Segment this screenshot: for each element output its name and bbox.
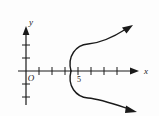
y-axis-arrowhead [23, 26, 30, 35]
parabola-upper-arrowhead [122, 25, 133, 34]
coordinate-plane-svg: y x O 5 [0, 0, 159, 116]
origin-label: O [28, 73, 35, 83]
parabola-lower-arrowhead [125, 106, 137, 114]
x-axis-tick-label-5: 5 [77, 75, 81, 84]
x-axis-label: x [143, 66, 148, 76]
y-axis-group [22, 26, 30, 105]
math-figure-canvas: y x O 5 [0, 0, 159, 116]
x-axis-arrowhead [130, 68, 139, 75]
y-axis-label: y [28, 17, 33, 27]
x-axis-group [18, 67, 139, 75]
parabola-upper-branch [70, 29, 126, 71]
